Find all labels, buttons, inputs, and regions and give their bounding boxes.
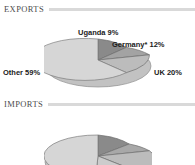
- header-rule-imports: [48, 103, 195, 106]
- pie-exports-canvas: [0, 14, 195, 96]
- pie-slice-other: [44, 135, 98, 165]
- pie-chart-imports: Germany* 10% United Arab Emirates 11% Ja…: [0, 109, 195, 165]
- pie-label-exports-uganda: Uganda 9%: [78, 28, 118, 38]
- pie-label-exports-other: Other 59%: [3, 68, 40, 78]
- infographic-page: EXPORTS: [0, 0, 195, 165]
- pie-imports-graphic: [44, 118, 152, 165]
- pie-chart-exports: Uganda 9% Germany* 12% UK 20% Other 59%: [0, 14, 195, 96]
- header-rule-exports: [49, 8, 195, 11]
- pie-label-exports-germany: Germany* 12%: [112, 40, 165, 50]
- pie-label-exports-uk: UK 20%: [154, 68, 182, 78]
- section-title-imports: IMPORTS: [0, 99, 48, 109]
- section-title-exports: EXPORTS: [0, 4, 49, 14]
- pie-imports-canvas: [0, 109, 195, 165]
